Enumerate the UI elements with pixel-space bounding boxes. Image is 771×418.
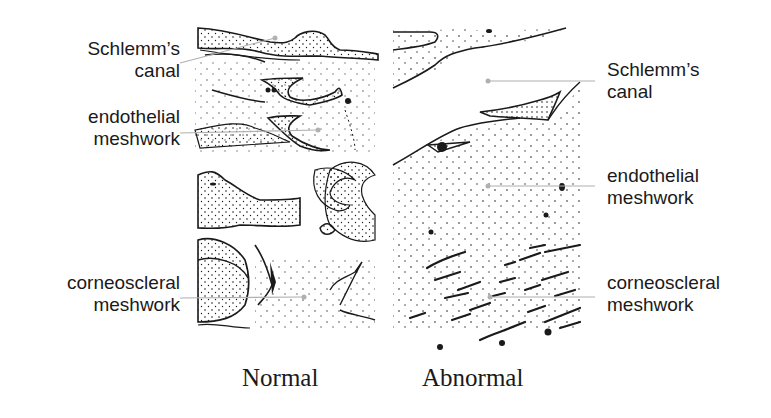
label-line: meshwork (607, 187, 699, 209)
normal-label-corneoscleral-meshwork: corneoscleral meshwork (67, 272, 180, 316)
abnormal-label-corneoscleral-meshwork: corneoscleral meshwork (607, 272, 720, 316)
normal-label-endothelial-meshwork: endothelial meshwork (88, 106, 180, 150)
label-line: meshwork (607, 294, 720, 316)
label-line: Schlemm’s (607, 59, 700, 81)
label-line: meshwork (67, 294, 180, 316)
normal-label-schlemms-canal: Schlemm’s canal (87, 38, 180, 82)
label-line: endothelial (607, 165, 699, 187)
abnormal-label-endothelial-meshwork: endothelial meshwork (607, 165, 699, 209)
abnormal-panel-drawing (393, 28, 580, 350)
label-line: endothelial (88, 106, 180, 128)
label-line: canal (607, 81, 700, 103)
normal-panel-drawing (195, 28, 378, 330)
normal-caption: Normal (242, 364, 318, 392)
label-line: corneoscleral (607, 272, 720, 294)
abnormal-caption: Abnormal (422, 364, 523, 392)
label-line: Schlemm’s (87, 38, 180, 60)
abnormal-label-schlemms-canal: Schlemm’s canal (607, 59, 700, 103)
label-line: canal (87, 60, 180, 82)
label-line: meshwork (88, 128, 180, 150)
label-line: corneoscleral (67, 272, 180, 294)
